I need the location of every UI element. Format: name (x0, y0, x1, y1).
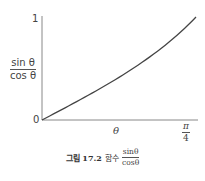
tan-curve (42, 17, 196, 120)
caption-numerator: sinθ (122, 148, 140, 158)
caption-denominator: cosθ (122, 158, 139, 167)
x-axis-label: θ (113, 126, 119, 136)
caption-figure-number: 그림 17.2 (66, 152, 102, 163)
x-end-tick: π 4 (182, 122, 190, 143)
y-axis-label: sin θ cos θ (10, 58, 36, 81)
x-end-denominator: 4 (183, 133, 189, 143)
y-label-numerator: sin θ (10, 58, 36, 70)
origin-label: 0 (33, 115, 39, 125)
figure-caption: 그림 17.2 함수 sinθ cosθ (0, 148, 205, 166)
y-tick-1: 1 (32, 14, 38, 24)
caption-text: 함수 (105, 152, 119, 163)
y-label-denominator: cos θ (10, 70, 36, 81)
x-end-numerator: π (182, 122, 190, 133)
caption-fraction: sinθ cosθ (122, 148, 140, 166)
